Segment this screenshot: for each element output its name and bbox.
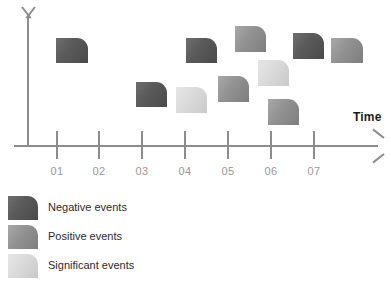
x-axis-tick-label-06: 06 <box>258 165 284 177</box>
x-axis-tick-05 <box>227 131 229 159</box>
legend-swatch-negative <box>8 196 38 220</box>
y-axis-arrow-icon <box>19 7 38 21</box>
x-axis-tick-02 <box>98 131 100 159</box>
event-marker-positive[interactable] <box>268 99 299 125</box>
legend-swatch-positive <box>8 225 38 249</box>
event-marker-significant[interactable] <box>176 87 207 113</box>
legend-label: Negative events <box>48 201 127 213</box>
x-axis-tick-label-07: 07 <box>301 165 327 177</box>
legend-label: Positive events <box>48 230 122 242</box>
event-marker-negative[interactable] <box>293 33 324 59</box>
x-axis-tick-label-04: 04 <box>172 165 198 177</box>
x-axis-tick-label-03: 03 <box>129 165 155 177</box>
event-marker-negative[interactable] <box>136 82 167 107</box>
event-marker-positive[interactable] <box>331 38 363 63</box>
x-axis-tick-label-02: 02 <box>86 165 112 177</box>
x-axis-tick-label-01: 01 <box>44 165 70 177</box>
event-marker-positive[interactable] <box>235 26 266 52</box>
x-axis-tick-07 <box>313 131 315 159</box>
x-axis-arrow-icon <box>370 136 384 156</box>
event-marker-positive[interactable] <box>218 76 249 102</box>
legend-label: Significant events <box>48 259 134 271</box>
x-axis-tick-label-05: 05 <box>215 165 241 177</box>
event-marker-negative[interactable] <box>56 38 88 63</box>
timeline-chart: 01020304050607 Time Negative eventsPosit… <box>0 0 391 291</box>
x-axis-tick-01 <box>56 131 58 159</box>
x-axis-tick-03 <box>141 131 143 159</box>
x-axis-tick-04 <box>184 131 186 159</box>
event-marker-significant[interactable] <box>258 60 289 86</box>
legend-swatch-significant <box>8 254 38 278</box>
x-axis-line <box>14 145 378 147</box>
x-axis-tick-06 <box>270 131 272 159</box>
x-axis-title: Time <box>353 110 382 124</box>
y-axis-line <box>27 14 29 146</box>
event-marker-negative[interactable] <box>186 38 217 63</box>
